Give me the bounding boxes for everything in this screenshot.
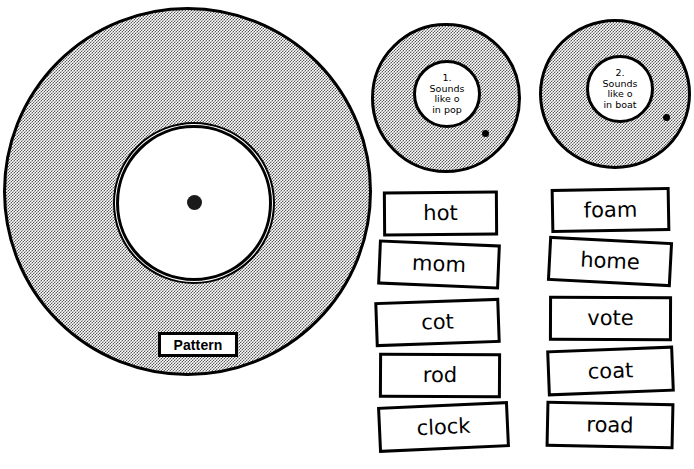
worksheet-canvas: Pattern 1. Sounds like o in pop 2. Sound… [0,0,694,469]
sorting-wheel-2[interactable]: 2. Sounds like o in boat [539,19,691,169]
word-card-rod[interactable]: rod [379,353,501,399]
word-card-coat[interactable]: coat [546,346,675,397]
word-card-label: hot [423,203,458,224]
center-pivot-dot-icon [187,195,202,210]
word-card-mom[interactable]: mom [377,239,501,289]
sorting-wheel-1-dot-icon [482,130,489,137]
word-card-label: clock [416,415,471,438]
word-card-clock[interactable]: clock [377,401,510,453]
word-card-road[interactable]: road [546,401,675,450]
sorting-wheel-1-line3: in pop [432,105,462,116]
sorting-wheel-2-line3: in boat [603,100,636,111]
sorting-wheel-2-number: 2. [615,68,624,79]
pattern-wheel[interactable]: Pattern [3,7,372,376]
word-card-home[interactable]: home [547,236,673,287]
word-card-label: rod [423,365,457,386]
sorting-wheel-2-line2: like o [607,89,632,100]
sorting-wheel-1-number: 1. [442,73,451,84]
word-card-foam[interactable]: foam [551,187,671,233]
word-card-label: mom [412,253,467,276]
sorting-wheel-1-hub: 1. Sounds like o in pop [413,60,481,128]
word-card-cot[interactable]: cot [374,298,500,347]
sorting-wheel-1-line2: like o [434,94,459,105]
word-card-label: cot [421,311,454,333]
word-card-label: coat [587,360,633,383]
word-card-label: road [586,414,634,436]
word-card-hot[interactable]: hot [383,191,498,237]
pattern-label: Pattern [158,332,238,357]
word-card-label: home [580,249,641,273]
pattern-label-text: Pattern [174,337,223,353]
sorting-wheel-2-dot-icon [663,114,670,121]
word-card-label: vote [587,308,634,329]
word-card-vote[interactable]: vote [549,296,672,341]
sorting-wheel-2-hub: 2. Sounds like o in boat [586,55,654,123]
word-card-label: foam [584,199,638,221]
sorting-wheel-1[interactable]: 1. Sounds like o in pop [371,23,521,173]
